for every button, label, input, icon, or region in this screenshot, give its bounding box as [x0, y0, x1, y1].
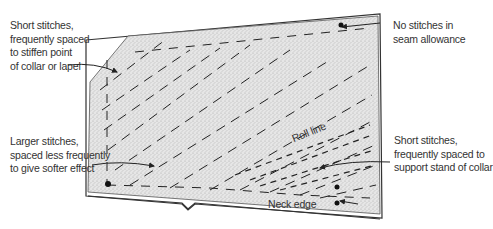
label-line: Short stitches,	[394, 134, 493, 148]
label-line: seam allowance	[393, 33, 466, 47]
label-line: support stand of collar	[394, 161, 493, 175]
label-line: No stitches in	[393, 19, 466, 33]
label-line: frequently spaced to	[394, 148, 493, 162]
label-line: frequently spaced	[10, 33, 90, 47]
label-line: Short stitches,	[10, 19, 90, 33]
label-top-left: Short stitches, frequently spaced to sti…	[10, 19, 90, 73]
label-mid-right: Short stitches, frequently spaced to sup…	[394, 134, 493, 175]
label-line: Larger stitches,	[10, 135, 110, 149]
label-mid-left: Larger stitches, spaced less frequently …	[10, 135, 110, 176]
label-line: to stiffen point	[10, 46, 90, 60]
label-line: of collar or lapel	[10, 60, 90, 74]
label-top-right: No stitches in seam allowance	[393, 19, 466, 46]
label-neck-edge: Neck edge	[268, 198, 316, 212]
label-line: to give softer effect	[10, 162, 110, 176]
label-line: spaced less frequently	[10, 149, 110, 163]
